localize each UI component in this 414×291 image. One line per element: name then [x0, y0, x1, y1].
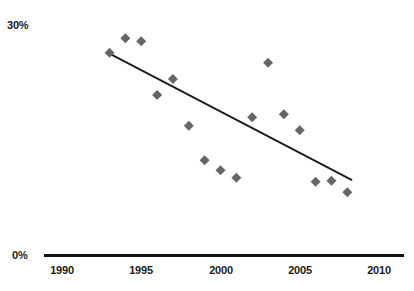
data-point-marker [168, 74, 178, 84]
data-point-marker [136, 36, 146, 46]
scatter-chart: 30% 0% 1990 1995 2000 2005 2010 [0, 0, 414, 291]
data-point-marker [120, 33, 130, 43]
plot-area [0, 0, 414, 291]
data-point-marker [326, 176, 336, 186]
data-point-marker [279, 109, 289, 119]
data-point-marker [184, 121, 194, 131]
data-point-marker [342, 187, 352, 197]
data-point-marker [152, 90, 162, 100]
data-point-marker [263, 58, 273, 68]
trend-line-segment [110, 54, 353, 181]
data-point-marker [295, 125, 305, 135]
data-point-marker [311, 177, 321, 187]
data-point-marker [200, 155, 210, 165]
data-point-marker [247, 112, 257, 122]
data-point-marker [231, 173, 241, 183]
data-point-marker [216, 165, 226, 175]
trend-line [110, 54, 353, 181]
